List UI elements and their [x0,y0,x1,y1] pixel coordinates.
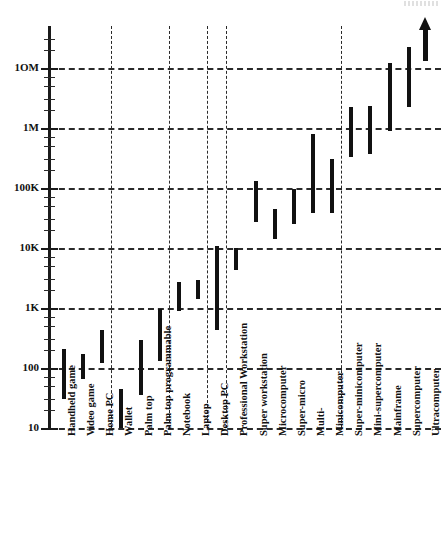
y-tick-minor [44,77,55,78]
y-tick-minor [44,159,55,160]
x-axis-category-label: Handheld game [67,365,78,436]
x-axis-category-label: Microcomputer [278,366,289,436]
y-tick-minor [44,290,55,291]
range-bar [254,181,258,222]
y-tick-minor [44,410,55,411]
range-bar [311,134,315,213]
y-axis-tick-label: 10 [28,422,41,433]
y-tick-minor [44,230,55,231]
y-tick-minor [44,39,55,40]
y-tick-minor [44,326,55,327]
range-bar [330,159,334,213]
y-tick-minor [44,197,55,198]
x-axis-category-label: Supercomputer [412,366,423,436]
range-bar [196,280,200,299]
y-tick-major [41,188,58,190]
x-axis-category-label: Ultracomputer [431,369,442,436]
gridline-h [49,188,441,190]
range-bar [81,354,85,379]
y-tick-minor [44,399,55,400]
y-tick-minor [44,86,55,87]
x-axis-category-label: Minicomputer [335,371,346,436]
gridline-v [207,26,208,428]
y-tick-minor [44,170,55,171]
range-bar [177,282,181,311]
y-axis-tick-label: 10K [19,242,41,253]
x-axis-category-label: Video game [86,384,97,436]
y-tick-minor [44,99,55,100]
range-bar [215,246,219,330]
x-axis-category-label: Professional Workstation [239,323,250,436]
range-bar [349,107,353,156]
x-axis-category-label: Palm top programmable [163,326,174,436]
x-axis-category-label: Desktop PC [220,383,231,436]
y-tick-minor [44,110,55,111]
y-tick-minor [44,206,55,207]
gridline-h [49,308,441,310]
y-tick-minor [44,386,55,387]
y-axis-tick-label: 1OM [15,62,41,73]
range-bar [292,189,296,224]
x-axis-category-label: Super-minicomputer [354,342,365,436]
gridline-v [111,26,112,428]
gridline-h [49,248,441,250]
y-tick-minor [44,339,55,340]
y-tick-minor [44,279,55,280]
x-axis-category-label: Mainframe [393,385,404,436]
range-bar [388,63,392,130]
range-bar [368,106,372,154]
gridline-v [226,26,227,428]
y-tick-major [41,368,58,370]
x-axis-category-label: Multi- [316,407,327,436]
y-tick-major [41,308,58,310]
y-tick-minor [44,377,55,378]
y-tick-minor [44,50,55,51]
y-axis-tick-label: 1M [23,122,41,133]
gridline-h [49,68,441,70]
y-tick-major [41,68,58,70]
y-tick-minor [44,219,55,220]
plot-area: 1OM1M100K10K1K10010 Handheld gameVideo g… [0,0,443,552]
y-axis-tick-label: 1K [25,302,41,313]
y-tick-major [41,428,58,430]
y-tick-minor [44,257,55,258]
x-axis-category-label: Mini-supercomputer [373,343,384,436]
x-axis-category-label: Super-micro [297,380,308,436]
range-bar [407,47,411,107]
x-axis-category-label: Super workstation [259,353,270,436]
range-bar [273,209,277,239]
x-axis-category-label: Wallet [124,407,135,436]
scan-artifact [404,1,440,6]
y-tick-minor [44,137,55,138]
y-tick-minor [44,146,55,147]
x-axis-category-label: Laptop [201,403,212,436]
y-tick-major [41,128,58,130]
x-axis-category-label: Palm top [144,395,155,436]
range-bar [139,340,143,395]
gridline-h [49,128,441,130]
range-bar [234,248,238,270]
y-axis-tick-label: 100 [23,362,42,373]
x-axis-category-label: Notebook [182,393,193,436]
y-tick-major [41,248,58,250]
gridline-v [341,26,342,428]
chart-root: 1OM1M100K10K1K10010 Handheld gameVideo g… [0,0,443,552]
range-bar [100,330,104,363]
x-axis-category-label: Home PC [105,393,116,436]
y-tick-minor [44,350,55,351]
y-tick-minor [44,266,55,267]
y-tick-minor [44,317,55,318]
y-axis-tick-label: 100K [14,182,41,193]
up-arrow-icon [419,17,432,62]
